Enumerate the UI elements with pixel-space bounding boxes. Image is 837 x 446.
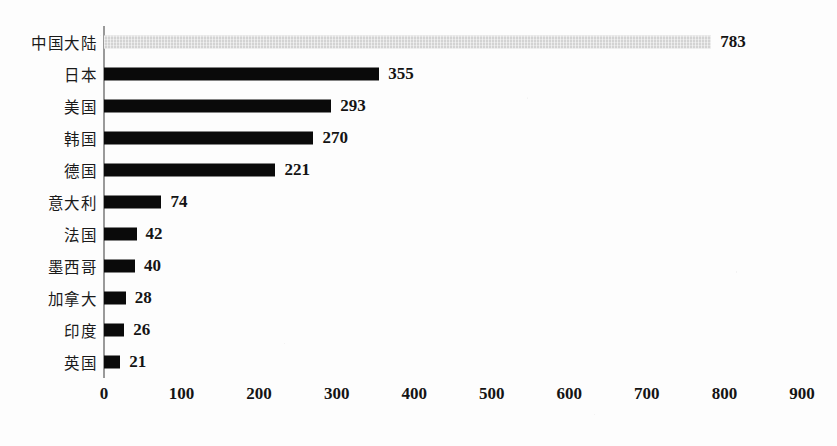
x-tick-label: 0 [100, 384, 109, 404]
bar-value-label: 42 [146, 224, 163, 244]
bar-value-label: 783 [720, 32, 746, 52]
bar[interactable] [104, 132, 313, 145]
bar[interactable] [104, 68, 379, 81]
bar[interactable] [104, 228, 137, 241]
bar[interactable] [104, 196, 161, 209]
category-label: 日本 [0, 63, 97, 85]
category-label: 韩国 [0, 127, 97, 149]
bar-track [104, 324, 124, 337]
bar-row[interactable]: 美国293 [0, 90, 837, 122]
bar-chart: 中国大陆783日本355美国293韩国270德国221意大利74法国42墨西哥4… [0, 0, 837, 446]
bar-track [104, 228, 137, 241]
bar-value-label: 293 [340, 96, 366, 116]
category-label: 中国大陆 [0, 31, 97, 53]
category-label: 法国 [0, 223, 97, 245]
bar[interactable] [104, 260, 135, 273]
plot-area: 中国大陆783日本355美国293韩国270德国221意大利74法国42墨西哥4… [0, 0, 837, 446]
bar-row[interactable]: 法国42 [0, 218, 837, 250]
bar-row[interactable]: 印度26 [0, 314, 837, 346]
x-tick-label: 300 [324, 384, 350, 404]
bar-track [104, 100, 331, 113]
bar[interactable] [104, 356, 120, 369]
bar-track [104, 36, 711, 49]
bar-row[interactable]: 日本355 [0, 58, 837, 90]
x-tick-label: 800 [712, 384, 738, 404]
bar[interactable] [104, 164, 275, 177]
bar-track [104, 356, 120, 369]
bar-row[interactable]: 墨西哥40 [0, 250, 837, 282]
bar-track [104, 260, 135, 273]
x-tick-label: 700 [634, 384, 660, 404]
bar-row[interactable]: 中国大陆783 [0, 26, 837, 58]
category-label: 德国 [0, 159, 97, 181]
bar-track [104, 68, 379, 81]
bar-value-label: 270 [322, 128, 348, 148]
bar-row[interactable]: 德国221 [0, 154, 837, 186]
x-tick-label: 900 [789, 384, 815, 404]
category-label: 加拿大 [0, 287, 97, 309]
bar-row[interactable]: 英国21 [0, 346, 837, 378]
x-tick-label: 400 [401, 384, 427, 404]
bar-row[interactable]: 加拿大28 [0, 282, 837, 314]
x-tick-label: 200 [246, 384, 272, 404]
bar-track [104, 196, 161, 209]
bar-value-label: 74 [170, 192, 187, 212]
category-label: 印度 [0, 319, 97, 341]
bar-value-label: 221 [284, 160, 310, 180]
bar[interactable] [104, 324, 124, 337]
bar[interactable] [104, 100, 331, 113]
category-label: 墨西哥 [0, 255, 97, 277]
bar-track [104, 292, 126, 305]
bar-track [104, 132, 313, 145]
bar-value-label: 28 [135, 288, 152, 308]
bar-track [104, 164, 275, 177]
bar-value-label: 355 [388, 64, 414, 84]
category-label: 英国 [0, 351, 97, 373]
x-tick-label: 500 [479, 384, 505, 404]
x-tick-label: 600 [557, 384, 583, 404]
bar-value-label: 26 [133, 320, 150, 340]
bar-row[interactable]: 意大利74 [0, 186, 837, 218]
bar-value-label: 21 [129, 352, 146, 372]
bar[interactable] [104, 292, 126, 305]
bar-row[interactable]: 韩国270 [0, 122, 837, 154]
bar-highlighted[interactable] [104, 36, 711, 49]
x-tick-label: 100 [169, 384, 195, 404]
bar-value-label: 40 [144, 256, 161, 276]
category-label: 美国 [0, 95, 97, 117]
category-label: 意大利 [0, 191, 97, 213]
